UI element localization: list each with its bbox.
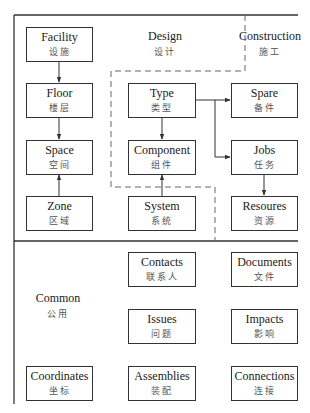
box-issues: Issues 问题 — [128, 309, 196, 344]
region-design-label: Design 设计 — [140, 30, 190, 58]
box-floor-en: Floor — [46, 87, 72, 100]
box-zone: Zone 区域 — [26, 196, 93, 231]
box-facility-zh: 设施 — [49, 46, 71, 58]
box-facility: Facility 设施 — [26, 27, 93, 62]
box-impacts: Impacts 影响 — [231, 309, 298, 344]
box-system: System 系统 — [128, 196, 196, 231]
region-design-en: Design — [140, 30, 190, 43]
box-spare: Spare 备件 — [231, 83, 298, 118]
box-connections: Connections 连接 — [231, 366, 298, 401]
box-documents-en: Documents — [237, 256, 292, 269]
box-zone-en: Zone — [47, 200, 72, 213]
box-impacts-zh: 影响 — [254, 328, 276, 340]
box-contacts: Contacts 联系人 — [128, 252, 196, 287]
region-common-en: Common — [28, 292, 88, 305]
box-spare-zh: 备件 — [254, 102, 276, 114]
box-component-zh: 组件 — [151, 159, 173, 171]
box-resoures-en: Resoures — [243, 200, 287, 213]
region-design-zh: 设计 — [140, 46, 190, 58]
box-documents: Documents 文件 — [231, 252, 298, 287]
region-construction-zh: 施工 — [235, 46, 305, 58]
region-construction-label: Construction 施工 — [235, 30, 305, 58]
box-resoures: Resoures 资源 — [231, 196, 298, 231]
box-connections-zh: 连接 — [254, 385, 276, 397]
box-floor-zh: 楼层 — [49, 102, 71, 114]
box-assemblies: Assemblies 装配 — [128, 366, 196, 401]
box-system-en: System — [144, 200, 179, 213]
box-coordinates: Coordinates 坐标 — [26, 366, 93, 401]
box-floor: Floor 楼层 — [26, 83, 93, 118]
box-jobs-zh: 任务 — [254, 159, 276, 171]
box-impacts-en: Impacts — [246, 313, 284, 326]
box-type: Type 类型 — [128, 83, 196, 118]
box-connections-en: Connections — [235, 370, 295, 383]
region-common-zh: 公用 — [28, 308, 88, 320]
box-resoures-zh: 资源 — [254, 215, 276, 227]
box-contacts-zh: 联系人 — [146, 271, 179, 283]
box-issues-zh: 问题 — [151, 328, 173, 340]
region-construction-en: Construction — [235, 30, 305, 43]
box-jobs-en: Jobs — [254, 144, 275, 157]
box-jobs: Jobs 任务 — [231, 140, 298, 175]
box-contacts-en: Contacts — [141, 256, 183, 269]
box-assemblies-en: Assemblies — [134, 370, 189, 383]
box-coordinates-en: Coordinates — [31, 370, 89, 383]
box-component-en: Component — [134, 144, 190, 157]
box-spare-en: Spare — [251, 87, 278, 100]
box-system-zh: 系统 — [151, 215, 173, 227]
box-facility-en: Facility — [41, 31, 78, 44]
box-space-en: Space — [45, 144, 74, 157]
region-common-label: Common 公用 — [28, 292, 88, 320]
box-issues-en: Issues — [147, 313, 176, 326]
box-coordinates-zh: 坐标 — [49, 385, 71, 397]
box-documents-zh: 文件 — [254, 271, 276, 283]
edge-type-jobs — [215, 100, 230, 157]
box-space: Space 空间 — [26, 140, 93, 175]
box-component: Component 组件 — [128, 140, 196, 175]
box-zone-zh: 区域 — [49, 215, 71, 227]
box-assemblies-zh: 装配 — [151, 385, 173, 397]
box-type-zh: 类型 — [151, 102, 173, 114]
box-type-en: Type — [150, 87, 174, 100]
box-space-zh: 空间 — [49, 159, 71, 171]
